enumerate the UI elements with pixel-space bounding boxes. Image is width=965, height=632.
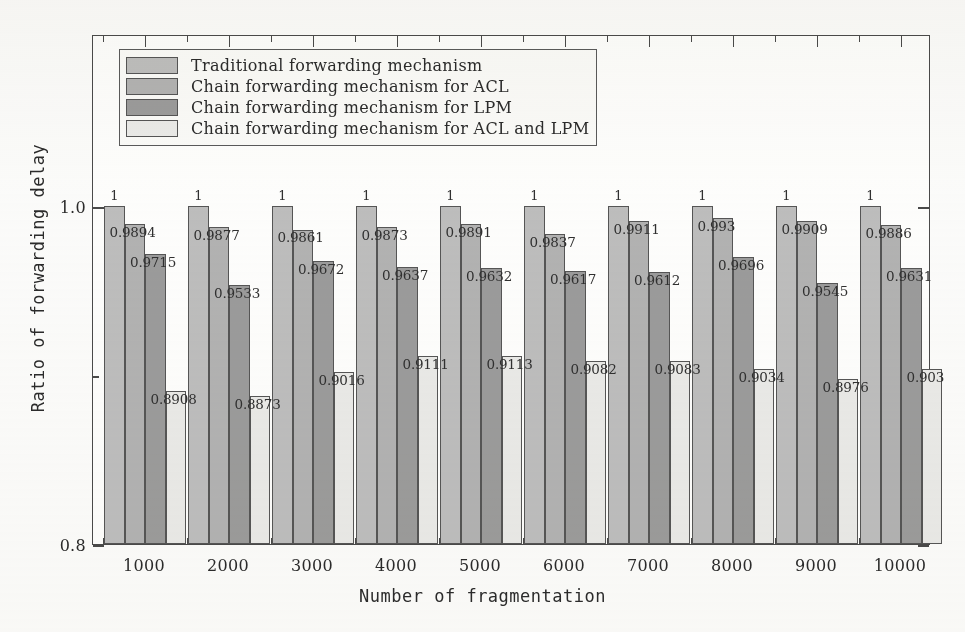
legend-item: Chain forwarding mechanism for ACL and L… xyxy=(126,118,590,139)
x-tick-label-2000: 2000 xyxy=(207,556,249,575)
bar-label-2000-series1: 1 xyxy=(194,188,202,203)
bar-4000-series4 xyxy=(418,356,439,544)
legend-swatch-acl-and-lpm xyxy=(126,120,178,137)
bar-label-1000-series1: 1 xyxy=(110,188,118,203)
bar-6000-series3 xyxy=(565,271,586,544)
legend-swatch-traditional xyxy=(126,57,178,74)
bar-label-2000-series2: 0.9877 xyxy=(194,227,240,243)
x-tick-top-10000 xyxy=(901,36,902,47)
x-tick-top-5000 xyxy=(481,36,482,47)
bar-10000-series4 xyxy=(922,369,943,544)
bar-label-9000-series4: 0.8976 xyxy=(823,379,869,395)
y-tick-0.8-right xyxy=(918,545,929,546)
y-axis-tick-labels: 1.0 0.8 xyxy=(0,0,86,632)
bar-label-2000-series3: 0.9533 xyxy=(214,285,260,301)
bar-label-5000-series1: 1 xyxy=(446,188,454,203)
bar-label-5000-series2: 0.9891 xyxy=(446,224,492,240)
bar-label-7000-series1: 1 xyxy=(614,188,622,203)
x-tick-top-1000 xyxy=(145,36,146,47)
bar-label-10000-series1: 1 xyxy=(866,188,874,203)
legend-label-acl: Chain forwarding mechanism for ACL xyxy=(191,77,509,96)
bar-label-7000-series2: 0.9911 xyxy=(614,221,660,237)
bar-3000-series4 xyxy=(334,372,355,544)
bar-label-7000-series4: 0.9083 xyxy=(655,361,701,377)
bar-1000-series4 xyxy=(166,391,187,544)
bar-8000-series4 xyxy=(754,369,775,544)
x-minor-tick-top xyxy=(271,36,272,42)
bar-5000-series4 xyxy=(502,356,523,544)
bar-label-10000-series3: 0.9631 xyxy=(886,268,932,284)
x-tick-label-1000: 1000 xyxy=(123,556,165,575)
bar-9000-series3 xyxy=(817,283,838,544)
x-tick-top-3000 xyxy=(313,36,314,47)
bar-9000-series4 xyxy=(838,379,859,544)
x-minor-tick-top xyxy=(355,36,356,42)
x-tick-top-9000 xyxy=(817,36,818,47)
bar-label-10000-series4: 0.903 xyxy=(907,369,945,385)
bar-2000-series3 xyxy=(229,285,250,544)
legend-item: Chain forwarding mechanism for ACL xyxy=(126,76,590,97)
figure-canvas: Ratio of forwarding delay 1.0 0.8 10.989… xyxy=(0,0,965,632)
bar-3000-series3 xyxy=(313,261,334,544)
bar-label-1000-series4: 0.8908 xyxy=(151,391,197,407)
bar-5000-series1 xyxy=(440,206,461,544)
bar-7000-series4 xyxy=(670,361,691,544)
x-minor-tick-top xyxy=(439,36,440,42)
x-minor-tick-top xyxy=(523,36,524,42)
legend-item: Traditional forwarding mechanism xyxy=(126,55,590,76)
bar-label-6000-series2: 0.9837 xyxy=(530,234,576,250)
bar-label-8000-series2: 0.993 xyxy=(698,218,736,234)
bar-label-5000-series3: 0.9632 xyxy=(466,268,512,284)
y-tick-1-left xyxy=(93,207,104,208)
y-tick-label-1.0: 1.0 xyxy=(8,198,86,217)
x-tick-label-4000: 4000 xyxy=(375,556,417,575)
bar-label-5000-series4: 0.9113 xyxy=(487,356,533,372)
x-minor-tick-top xyxy=(775,36,776,42)
bar-4000-series3 xyxy=(397,267,418,544)
bar-label-1000-series3: 0.9715 xyxy=(130,254,176,270)
bar-5000-series3 xyxy=(481,268,502,544)
x-tick-label-5000: 5000 xyxy=(459,556,501,575)
y-tick-label-0.8: 0.8 xyxy=(8,536,86,555)
legend-item: Chain forwarding mechanism for LPM xyxy=(126,97,590,118)
legend-label-traditional: Traditional forwarding mechanism xyxy=(191,56,482,75)
bar-label-4000-series4: 0.9111 xyxy=(403,356,449,372)
bar-label-6000-series1: 1 xyxy=(530,188,538,203)
bar-2000-series2 xyxy=(209,227,230,544)
x-tick-label-10000: 10000 xyxy=(874,556,926,575)
bar-label-4000-series3: 0.9637 xyxy=(382,267,428,283)
y-minor-tick-0.9-left xyxy=(93,376,99,377)
bar-label-8000-series1: 1 xyxy=(698,188,706,203)
bar-label-2000-series4: 0.8873 xyxy=(235,396,281,412)
bar-6000-series4 xyxy=(586,361,607,544)
bar-label-8000-series4: 0.9034 xyxy=(739,369,785,385)
x-tick-top-2000 xyxy=(229,36,230,47)
bar-label-3000-series4: 0.9016 xyxy=(319,372,365,388)
bar-9000-series2 xyxy=(797,221,818,544)
x-minor-tick-top xyxy=(103,36,104,42)
x-minor-tick-top xyxy=(607,36,608,42)
bar-1000-series1 xyxy=(104,206,125,544)
y-tick-1-right xyxy=(918,207,929,208)
bar-label-4000-series2: 0.9873 xyxy=(362,227,408,243)
chart-legend: Traditional forwarding mechanism Chain f… xyxy=(119,49,597,146)
bar-label-4000-series1: 1 xyxy=(362,188,370,203)
bar-10000-series1 xyxy=(860,206,881,544)
bar-label-9000-series2: 0.9909 xyxy=(782,221,828,237)
y-tick-0.8-left xyxy=(93,545,104,546)
bar-2000-series1 xyxy=(188,206,209,544)
x-tick-top-4000 xyxy=(397,36,398,47)
x-tick-label-8000: 8000 xyxy=(711,556,753,575)
bar-label-3000-series1: 1 xyxy=(278,188,286,203)
bar-label-6000-series4: 0.9082 xyxy=(571,361,617,377)
bar-label-10000-series2: 0.9886 xyxy=(866,225,912,241)
legend-label-acl-and-lpm: Chain forwarding mechanism for ACL and L… xyxy=(191,119,589,138)
bar-label-9000-series3: 0.9545 xyxy=(802,283,848,299)
bar-6000-series1 xyxy=(524,206,545,544)
plot-area: 10.98940.97150.890810.98770.95330.887310… xyxy=(92,35,930,545)
x-tick-top-6000 xyxy=(565,36,566,47)
x-tick-label-3000: 3000 xyxy=(291,556,333,575)
bar-3000-series1 xyxy=(272,206,293,544)
x-minor-tick-top xyxy=(187,36,188,42)
legend-swatch-acl xyxy=(126,78,178,95)
